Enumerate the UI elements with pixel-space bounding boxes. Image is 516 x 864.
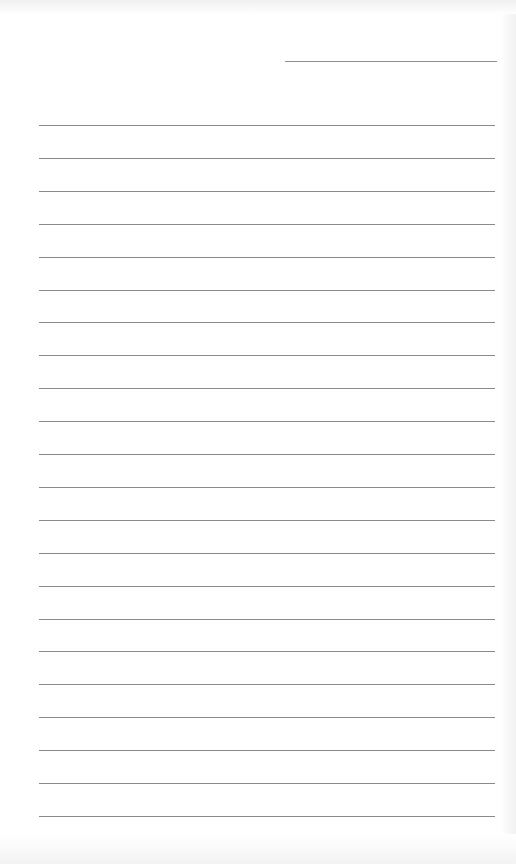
ruled-line	[39, 717, 495, 718]
ruled-line	[39, 158, 495, 159]
ruled-line	[39, 355, 495, 356]
ruled-line	[39, 783, 495, 784]
ruled-line	[39, 454, 495, 455]
ruled-line	[39, 125, 495, 126]
ruled-line	[39, 619, 495, 620]
ruled-line	[39, 586, 495, 587]
ruled-line	[39, 651, 495, 652]
bottom-shadow	[0, 834, 516, 864]
ruled-line	[39, 388, 495, 389]
ruled-line	[39, 322, 495, 323]
ruled-line	[39, 487, 495, 488]
ruled-line	[39, 553, 495, 554]
top-shadow	[0, 0, 516, 14]
lined-paper-sheet	[0, 0, 516, 864]
header-date-line	[285, 61, 497, 62]
ruled-line	[39, 257, 495, 258]
ruled-line	[39, 684, 495, 685]
ruled-line	[39, 421, 495, 422]
ruled-line	[39, 750, 495, 751]
ruled-line	[39, 816, 495, 817]
ruled-line	[39, 191, 495, 192]
ruled-line	[39, 290, 495, 291]
ruled-line	[39, 520, 495, 521]
ruled-line	[39, 224, 495, 225]
